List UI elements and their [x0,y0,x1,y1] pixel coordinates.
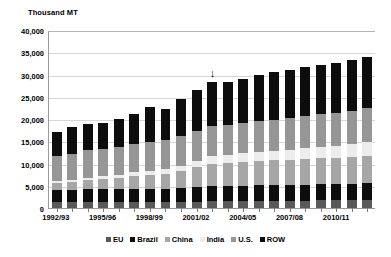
stacked-bar[interactable] [347,60,357,208]
stacked-bar[interactable] [83,124,93,208]
bar-segment-brazil[interactable] [238,186,248,202]
bar-segment-brazil[interactable] [67,190,77,202]
bar-segment-us[interactable] [285,118,295,150]
bar-segment-us[interactable] [52,156,62,181]
bar-segment-eu[interactable] [238,201,248,208]
stacked-bar[interactable] [223,82,233,208]
bar-segment-us[interactable] [67,154,77,180]
stacked-bar[interactable] [192,90,202,208]
bar-segment-row[interactable] [300,67,310,116]
bar-slot[interactable] [235,31,251,208]
bar-segment-china[interactable] [269,160,279,185]
bar-slot[interactable] [329,31,345,208]
legend-item-china[interactable]: China [165,235,193,244]
stacked-bar[interactable] [114,119,124,208]
bar-slot[interactable] [251,31,267,208]
bar-segment-row[interactable] [254,75,264,121]
bar-slot[interactable] [204,31,220,208]
bar-segment-eu[interactable] [362,200,372,208]
bar-segment-india[interactable] [316,147,326,158]
bar-segment-eu[interactable] [223,201,233,208]
bar-slot[interactable] [313,31,329,208]
stacked-bar[interactable] [207,82,217,208]
bar-segment-india[interactable] [269,151,279,160]
bar-slot[interactable] [65,31,81,208]
stacked-bar[interactable] [145,107,155,208]
bar-segment-china[interactable] [192,167,202,187]
bar-segment-us[interactable] [254,121,264,152]
bar-segment-china[interactable] [238,162,248,186]
legend-item-eu[interactable]: EU [106,235,123,244]
legend-item-brazil[interactable]: Brazil [130,235,157,244]
legend-item-us[interactable]: U.S. [231,235,253,244]
bar-segment-row[interactable] [238,79,248,123]
bar-segment-china[interactable] [331,158,341,184]
stacked-bar[interactable] [285,70,295,208]
bar-segment-eu[interactable] [347,200,357,208]
bar-segment-brazil[interactable] [52,190,62,202]
bar-segment-china[interactable] [285,160,295,185]
bar-segment-china[interactable] [145,175,155,189]
bar-segment-china[interactable] [161,174,171,189]
stacked-bar[interactable] [269,72,279,208]
bar-segment-india[interactable] [223,155,233,163]
bar-segment-india[interactable] [207,156,217,164]
bar-segment-row[interactable] [207,82,217,126]
bar-segment-us[interactable] [207,126,217,156]
bar-slot[interactable] [127,31,143,208]
bar-slot[interactable] [96,31,112,208]
bar-segment-india[interactable] [254,152,264,161]
bar-slot[interactable] [80,31,96,208]
bar-slot[interactable] [49,31,65,208]
bar-segment-eu[interactable] [300,201,310,208]
bar-slot[interactable] [282,31,298,208]
bar-segment-row[interactable] [316,65,326,114]
legend-item-india[interactable]: India [200,235,225,244]
bar-segment-row[interactable] [223,82,233,125]
stacked-bar[interactable] [362,57,372,208]
bar-segment-row[interactable] [114,119,124,147]
bar-segment-us[interactable] [362,108,372,142]
bar-segment-china[interactable] [254,161,264,185]
stacked-bar[interactable] [238,79,248,208]
legend-item-row[interactable]: ROW [260,235,285,244]
stacked-bar[interactable] [161,109,171,208]
bar-segment-brazil[interactable] [316,184,326,200]
bar-segment-us[interactable] [129,144,139,172]
bar-segment-india[interactable] [300,148,310,159]
bar-slot[interactable] [298,31,314,208]
bar-segment-brazil[interactable] [145,189,155,202]
bar-segment-row[interactable] [52,132,62,156]
bar-segment-brazil[interactable] [129,189,139,202]
stacked-bar[interactable] [316,65,326,208]
bar-segment-brazil[interactable] [223,186,233,201]
bar-segment-us[interactable] [98,149,108,177]
bar-slot[interactable] [142,31,158,208]
bar-segment-row[interactable] [176,99,186,137]
bar-segment-brazil[interactable] [285,185,295,201]
bar-segment-us[interactable] [347,111,357,145]
bar-segment-us[interactable] [223,125,233,155]
bar-segment-india[interactable] [347,144,357,157]
bar-segment-row[interactable] [269,72,279,119]
bar-segment-brazil[interactable] [176,188,186,202]
bar-segment-brazil[interactable] [192,187,202,202]
stacked-bar[interactable] [67,127,77,208]
bar-segment-row[interactable] [331,63,341,112]
stacked-bar[interactable] [331,63,341,208]
bar-segment-brazil[interactable] [207,186,217,201]
bar-segment-brazil[interactable] [161,189,171,202]
bar-segment-india[interactable] [362,142,372,155]
bar-segment-brazil[interactable] [83,189,93,201]
bar-segment-us[interactable] [300,116,310,148]
bar-slot[interactable] [266,31,282,208]
bar-segment-us[interactable] [83,150,93,178]
bar-segment-china[interactable] [223,163,233,186]
bar-segment-china[interactable] [347,157,357,184]
bar-slot[interactable] [189,31,205,208]
bar-segment-eu[interactable] [269,201,279,208]
bar-segment-row[interactable] [192,90,202,132]
bar-segment-brazil[interactable] [362,183,372,200]
bar-slot[interactable] [173,31,189,208]
bar-slot[interactable] [220,31,236,208]
